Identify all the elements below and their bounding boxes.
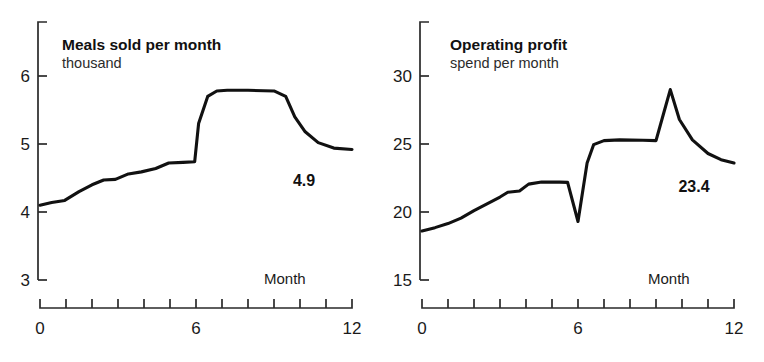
- y-axis-line: [420, 22, 429, 280]
- x-axis-tick-labels: 0612: [417, 319, 743, 338]
- chart-title: Operating profit: [450, 36, 567, 53]
- x-tick-label: 0: [417, 319, 426, 338]
- x-axis-ticks: [66, 299, 326, 308]
- y-axis-line: [38, 22, 47, 280]
- x-axis-name: Month: [264, 270, 306, 287]
- x-tick-label: 12: [725, 319, 744, 338]
- y-tick-label: 3: [21, 271, 30, 290]
- chart-subtitle: thousand: [62, 55, 122, 71]
- y-axis-tick-labels: 3456: [21, 67, 30, 290]
- y-tick-label: 20: [393, 203, 412, 222]
- x-tick-label: 6: [573, 319, 582, 338]
- chart-subtitle: spend per month: [450, 55, 559, 71]
- y-tick-label: 25: [393, 135, 412, 154]
- y-tick-label: 15: [393, 271, 412, 290]
- x-axis-ticks: [448, 299, 708, 308]
- chart-panel-meals-sold: 3456 0612 Meals sold per month thousand …: [0, 0, 382, 362]
- y-tick-label: 6: [21, 67, 30, 86]
- end-value-annotation: 4.9: [293, 172, 315, 189]
- x-tick-label: 0: [35, 319, 44, 338]
- chart-panel-operating-profit: 15202530 0612 Operating profit spend per…: [382, 0, 764, 362]
- x-tick-label: 6: [191, 319, 200, 338]
- y-tick-label: 30: [393, 67, 412, 86]
- chart-title: Meals sold per month: [62, 36, 221, 53]
- operating-profit-svg: 15202530 0612 Operating profit spend per…: [382, 0, 764, 362]
- x-tick-label: 12: [343, 319, 362, 338]
- x-axis-tick-labels: 0612: [35, 319, 361, 338]
- y-tick-label: 5: [21, 135, 30, 154]
- y-axis-tick-labels: 15202530: [393, 67, 412, 290]
- y-axis-ticks: [420, 76, 429, 280]
- end-value-annotation: 23.4: [678, 178, 709, 195]
- y-axis-ticks: [38, 76, 47, 280]
- data-series-line: [422, 90, 734, 231]
- meals-sold-svg: 3456 0612 Meals sold per month thousand …: [0, 0, 382, 362]
- x-axis-name: Month: [648, 270, 690, 287]
- y-tick-label: 4: [21, 203, 30, 222]
- figure-root: 3456 0612 Meals sold per month thousand …: [0, 0, 764, 362]
